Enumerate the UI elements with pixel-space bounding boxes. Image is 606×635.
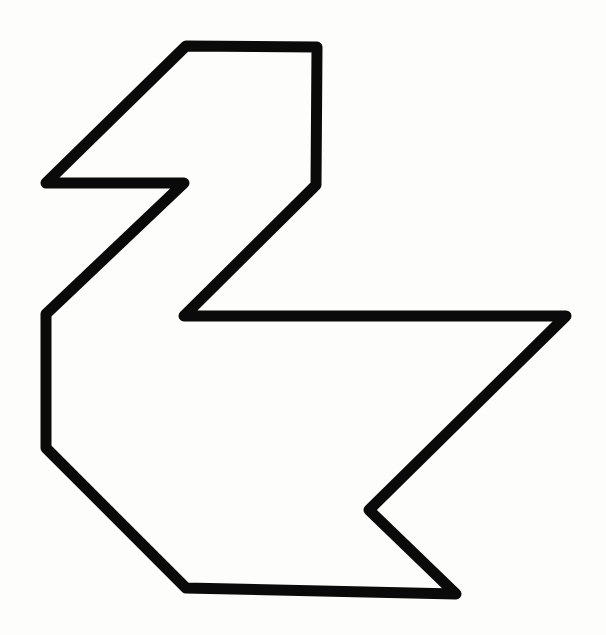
swan-figure [0,0,606,635]
